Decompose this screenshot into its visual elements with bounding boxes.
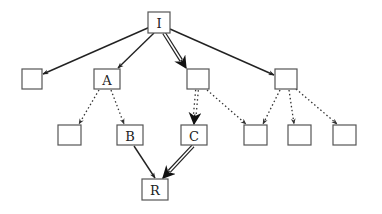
edge-n-to-d3 [296,89,337,124]
node-box [22,69,42,89]
tree-diagram: IABCR [0,0,382,214]
node-b: B [117,125,143,145]
edge-i-to-m [164,33,186,68]
node-empty-d3 [333,125,356,145]
node-i: I [148,12,170,33]
node-label: C [189,129,199,144]
node-empty-e [58,125,81,145]
node-empty-l1 [22,69,42,89]
node-label: A [101,73,112,88]
edge-a-to-b [111,90,124,124]
node-box [288,125,311,145]
edge-n-to-d2 [289,90,294,124]
edge-a-to-e [79,90,99,124]
node-c: C [181,125,207,145]
node-label: I [156,16,161,31]
edge-c-to-r [163,146,193,178]
node-empty-d2 [288,125,311,145]
node-empty-m [187,69,209,89]
node-box [58,125,81,145]
node-box [187,69,209,89]
node-empty-n [275,69,297,89]
edge-m-to-d1 [207,90,246,124]
node-r: R [142,179,168,200]
edge-b-to-r [134,146,155,178]
edges-layer [43,27,337,178]
edge-m-to-c [194,90,197,124]
node-label: B [125,129,135,144]
nodes-layer: IABCR [22,12,356,200]
node-label: R [150,183,161,198]
edge-i-to-l1 [43,27,150,74]
node-empty-d1 [244,125,267,145]
node-box [333,125,356,145]
edge-n-to-d1 [263,90,280,124]
node-a: A [94,69,120,89]
node-box [275,69,297,89]
node-box [244,125,267,145]
